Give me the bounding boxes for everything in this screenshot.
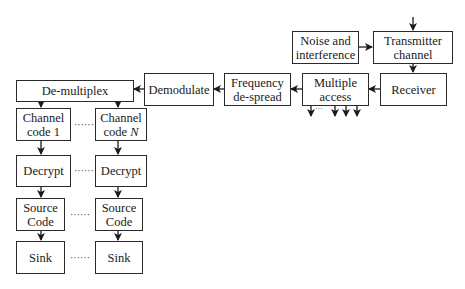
frequency-despread-box: Frequency de-spread [224,73,291,106]
demodulate-label: Demodulate [148,83,209,97]
sink-n-label: Sink [108,251,131,265]
multiple-access-box: Multiple access [302,73,369,106]
noise-interference-label: Noise and interference [296,34,356,62]
ellipsis-sink: ······ [70,254,90,262]
noise-interference-box: Noise and interference [292,31,359,64]
demultiplex-label: De-multiplex [42,84,109,98]
source-code-1-label: Source Code [23,201,58,229]
sink-1-box: Sink [16,241,65,274]
channel-code-n-label: Channel code N [100,111,142,139]
demodulate-box: Demodulate [144,73,214,106]
demultiplex-box: De-multiplex [16,80,134,102]
receiver-label: Receiver [391,83,435,97]
decrypt-n-label: Decrypt [101,164,141,178]
decrypt-n-box: Decrypt [95,155,147,187]
decrypt-1-box: Decrypt [16,155,71,187]
multiple-access-label: Multiple access [314,76,357,104]
frequency-despread-label: Frequency de-spread [231,76,284,104]
transmitter-channel-label: Transmitter channel [384,34,442,62]
decrypt-1-label: Decrypt [23,164,63,178]
ellipsis-channel-code: ······ [74,121,94,129]
ellipsis-source-code: ······ [70,211,90,219]
channel-code-1-box: Channel code 1 [16,108,71,141]
transmitter-channel-box: Transmitter channel [373,31,453,64]
ellipsis-decrypt: ······ [74,167,94,175]
source-code-n-box: Source Code [95,198,143,231]
sink-1-label: Sink [29,251,52,265]
channel-code-n-box: Channel code N [95,108,147,141]
channel-code-1-label: Channel code 1 [23,111,65,139]
source-code-1-box: Source Code [16,198,65,231]
multiple-access-ellipsis: ··· [315,105,323,113]
sink-n-box: Sink [95,241,143,274]
source-code-n-label: Source Code [102,201,137,229]
receiver-box: Receiver [380,73,447,106]
